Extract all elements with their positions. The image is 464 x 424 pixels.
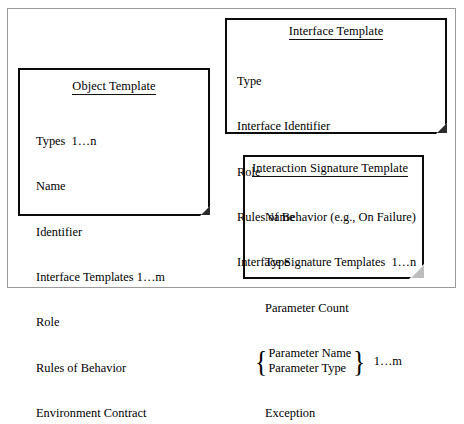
parameter-rows: Parameter Name Parameter Type: [268, 346, 351, 376]
folded-corner-icon: [437, 123, 447, 133]
right-brace-icon: }: [353, 346, 365, 376]
list-item: Rules of Behavior: [36, 361, 165, 376]
interaction-signature-template-title-text: Interaction Signature Template: [252, 161, 408, 177]
object-template-title: Object Template: [18, 79, 210, 93]
interface-template-card: Interface Template Type Interface Identi…: [225, 18, 447, 134]
list-item: Interface Templates 1…m: [36, 270, 165, 285]
list-item: Name: [265, 210, 402, 225]
folded-corner-icon: [201, 206, 210, 215]
list-item: Identifier: [36, 225, 165, 240]
list-item: Parameter Name: [268, 346, 351, 361]
interface-template-title-text: Interface Template: [289, 24, 384, 40]
interaction-signature-template-title: Interaction Signature Template: [252, 161, 415, 175]
list-item: Types 1…n: [36, 134, 165, 149]
interaction-signature-template-card: Interaction Signature Template Name Type…: [243, 155, 424, 279]
object-template-field-list: Types 1…n Name Identifier Interface Temp…: [36, 104, 165, 424]
object-template-card: Object Template Types 1…n Name Identifie…: [18, 68, 210, 216]
list-item: Parameter Count: [265, 301, 402, 316]
list-item: Interface Identifier: [237, 119, 416, 134]
parameter-braced-group: { Parameter Name Parameter Type } 1…m: [265, 346, 402, 376]
list-item: Role: [36, 315, 165, 330]
list-item: Exception: [265, 406, 402, 421]
interface-template-title: Interface Template: [225, 24, 447, 38]
interaction-signature-template-field-list: Name Type Parameter Count { Parameter Na…: [265, 180, 402, 424]
list-item: Environment Contract: [36, 406, 165, 421]
object-template-title-text: Object Template: [72, 79, 155, 95]
parameter-multiplicity: 1…m: [374, 354, 402, 369]
list-item: Type: [265, 255, 402, 270]
list-item: Name: [36, 179, 165, 194]
left-brace-icon: {: [255, 346, 267, 376]
list-item: Type: [237, 74, 416, 89]
list-item: Parameter Type: [268, 361, 351, 376]
